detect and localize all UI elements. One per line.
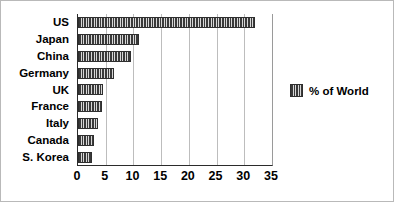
- bar-japan: [78, 34, 139, 45]
- bar-china: [78, 51, 131, 62]
- category-label: China: [37, 48, 69, 65]
- category-label: UK: [52, 82, 69, 99]
- category-label: S. Korea: [22, 149, 69, 166]
- bar-row: [78, 31, 139, 48]
- bar-row: [78, 132, 94, 149]
- category-label: Japan: [36, 31, 69, 48]
- bar-row: [78, 98, 102, 115]
- bar-italy: [78, 118, 98, 129]
- x-tick-label: 0: [74, 169, 81, 183]
- bar-row: [78, 65, 114, 82]
- bar-france: [78, 101, 102, 112]
- category-label: Italy: [46, 115, 69, 132]
- bar-canada: [78, 135, 94, 146]
- category-label: Canada: [27, 132, 69, 149]
- category-label: Germany: [19, 65, 69, 82]
- bar-rows: [78, 14, 272, 165]
- bar-s-korea: [78, 152, 92, 163]
- x-tick-label: 35: [264, 169, 278, 183]
- category-axis-labels: USJapanChinaGermanyUKFranceItalyCanadaS.…: [1, 14, 73, 166]
- bar-row: [78, 48, 131, 65]
- legend-label: % of World: [309, 85, 369, 97]
- bar-chart-figure: USJapanChinaGermanyUKFranceItalyCanadaS.…: [0, 0, 394, 202]
- bar-uk: [78, 84, 103, 95]
- legend-swatch-icon: [290, 84, 303, 97]
- plot-area: [77, 14, 273, 166]
- x-tick-label: 25: [209, 169, 223, 183]
- category-label: France: [31, 98, 69, 115]
- bar-germany: [78, 68, 114, 79]
- bar-row: [78, 115, 98, 132]
- x-tick-label: 10: [125, 169, 139, 183]
- bar-row: [78, 149, 92, 166]
- x-tick-label: 30: [236, 169, 250, 183]
- bar-row: [78, 14, 255, 31]
- x-axis-tick-labels: 05101520253035: [77, 169, 273, 189]
- legend: % of World: [290, 84, 369, 97]
- bar-row: [78, 82, 103, 99]
- x-tick-label: 5: [101, 169, 108, 183]
- x-tick-label: 20: [181, 169, 195, 183]
- category-label: US: [53, 14, 69, 31]
- bar-us: [78, 17, 255, 28]
- x-tick-label: 15: [153, 169, 167, 183]
